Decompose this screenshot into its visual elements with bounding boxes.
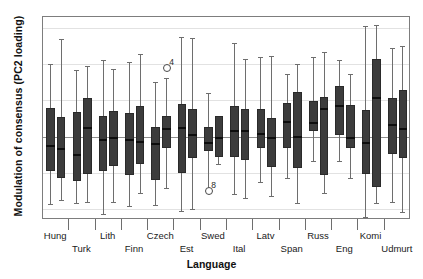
median-line [267,137,276,139]
box-iqr [257,109,266,148]
x-label-russ: Russ [307,230,329,241]
whisker-cap-lower [127,206,132,207]
whisker-cap-lower [400,212,405,213]
x-label-latv: Latv [256,230,274,241]
x-tick [147,219,148,230]
whisker-cap-lower [85,202,90,203]
gridline [43,64,409,65]
median-line [230,130,239,132]
median-line [162,128,171,130]
whisker-cap-lower [190,209,195,210]
box-iqr [162,116,171,149]
median-line [399,128,408,130]
median-line [335,105,344,107]
whisker-cap-upper [400,46,405,47]
gridline [43,209,409,210]
median-line [309,122,318,124]
whisker-cap-lower [101,214,106,215]
whisker-cap-upper [232,43,237,44]
median-line [320,108,329,110]
whisker-cap-lower [48,204,53,205]
whisker-cap-upper [374,25,379,26]
box-iqr [293,92,302,168]
median-line [57,148,66,150]
box-iqr [73,112,82,181]
whisker-cap-lower [111,202,116,203]
whisker-cap-lower [269,196,274,197]
box-iqr [346,105,355,149]
x-tick [331,219,332,230]
gridline [43,28,409,29]
whisker-cap-upper [348,74,353,75]
x-tick [252,219,253,230]
x-tick [305,219,306,230]
box-iqr [125,113,134,175]
box-iqr [83,98,92,174]
box-iqr [204,127,213,151]
median-line [99,139,108,141]
median-line [388,124,397,126]
box-iqr [267,118,276,167]
median-line [215,137,224,139]
whisker-cap-lower [138,193,143,194]
median-line [293,136,302,138]
median-line [346,137,355,139]
whisker-cap-lower [374,203,379,204]
whisker-cap-upper [48,64,53,65]
whisker-cap-upper [101,60,106,61]
box-iqr [283,103,292,148]
x-label-finn: Finn [125,243,143,254]
plot-area: 48 [42,16,410,219]
x-tick [121,219,122,230]
x-label-eng: Eng [336,243,353,254]
box-iqr [335,86,344,135]
box-iqr [99,116,108,171]
median-line [188,134,197,136]
x-tick [226,219,227,230]
whisker-cap-lower [179,211,184,212]
median-line [372,97,381,99]
whisker-cap-lower [337,161,342,162]
whisker-cap-lower [258,182,263,183]
whisker-cap-lower [74,203,79,204]
x-tick [173,219,174,230]
whisker-cap-lower [363,217,368,218]
whisker-cap-upper [206,93,211,94]
x-tick [279,219,280,230]
x-label-komi: Komi [360,230,382,241]
x-label-est: Est [180,243,194,254]
whisker-cap-upper [111,69,116,70]
whisker-cap-upper [138,54,143,55]
median-line [362,142,371,144]
whisker-cap-upper [190,38,195,39]
whisker-cap-lower [348,178,353,179]
whisker-cap-lower [285,178,290,179]
x-label-udmurt: Udmurt [381,243,412,254]
median-line [151,143,160,145]
median-line [125,139,134,141]
whisker-cap-upper [322,52,327,53]
x-label-lith: Lith [100,230,115,241]
median-line [283,121,292,123]
whisker-cap-upper [164,78,169,79]
x-tick [68,219,69,230]
median-line [73,154,82,156]
boxplot-figure: Modulation of consensus (PC2 loading) .6… [0,0,423,279]
outlier-label: 4 [169,57,174,67]
median-line [204,142,213,144]
whisker-cap-lower [164,188,169,189]
whisker-cap-lower [295,203,300,204]
x-label-ital: Ital [233,243,246,254]
x-tick [384,219,385,230]
gridline [43,173,409,174]
x-label-span: Span [281,243,303,254]
whisker-cap-upper [285,74,290,75]
whisker-cap-lower [232,194,237,195]
median-line [109,137,118,139]
whisker-cap-upper [269,56,274,57]
median-line [83,127,92,129]
whisker-cap-lower [322,193,327,194]
median-line [178,127,187,129]
whisker-cap-upper [258,57,263,58]
x-tick [200,219,201,230]
